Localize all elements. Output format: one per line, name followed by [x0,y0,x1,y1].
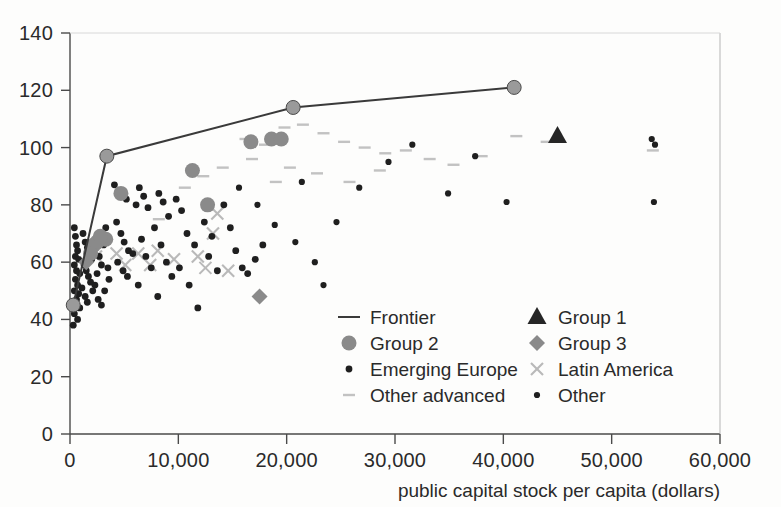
point-emerging-europe [165,213,172,220]
point-emerging-europe [138,236,145,243]
point-group-2 [243,134,258,149]
point-other [254,202,260,208]
frontier-node [286,100,300,114]
point-other [356,185,362,191]
point-emerging-europe [194,305,201,312]
point-emerging-europe [259,242,266,249]
y-tick-label: 60 [30,251,53,273]
point-emerging-europe [105,264,112,271]
point-emerging-europe [148,264,155,271]
point-emerging-europe [168,273,175,280]
point-emerging-europe [121,239,128,246]
legend-item[interactable]: Other [534,385,606,406]
point-emerging-europe [220,201,227,208]
point-group-2 [93,229,108,244]
legend-label: Group 2 [370,333,439,354]
scatter-chart: 020406080100120140010,00020,00030,00040,… [0,0,781,507]
legend-label: Other [558,385,606,406]
point-emerging-europe [73,242,80,249]
point-group-2 [185,163,200,178]
point-other [385,159,391,165]
point-emerging-europe [178,207,185,214]
point-emerging-europe [113,219,120,226]
x-axis-title: public capital stock per capita (dollars… [398,480,720,501]
frontier-node [66,298,80,312]
series-group-1 [548,126,567,143]
legend-item[interactable]: Group 3 [529,333,627,354]
point-emerging-europe [201,219,208,226]
legend-marker-circle-small [346,366,353,373]
point-emerging-europe [70,322,77,329]
y-tick-label: 140 [19,22,53,44]
point-other [272,222,278,228]
point-other [292,239,298,245]
point-group-2 [274,131,289,146]
point-emerging-europe [79,285,86,292]
point-other [652,142,658,148]
point-emerging-europe [135,282,142,289]
y-tick-label: 20 [30,366,53,388]
legend-marker-triangle [528,307,547,324]
point-emerging-europe [214,267,221,274]
point-emerging-europe [227,224,234,231]
point-emerging-europe [118,230,125,237]
legend-label: Group 3 [558,333,627,354]
x-tick-label: 20,000 [255,449,317,471]
point-emerging-europe [133,201,140,208]
point-emerging-europe [244,270,251,277]
point-other [299,179,305,185]
point-other [409,142,415,148]
point-emerging-europe [158,242,165,249]
point-other [651,199,657,205]
legend-marker-diamond [529,335,545,351]
point-emerging-europe [160,199,167,206]
chart-canvas: 020406080100120140010,00020,00030,00040,… [0,0,781,507]
point-emerging-europe [232,247,239,254]
point-emerging-europe [98,302,105,309]
point-emerging-europe [163,259,170,266]
point-other [236,185,242,191]
point-emerging-europe [145,204,152,211]
frontier-node [100,149,114,163]
legend-label: Group 1 [558,307,627,328]
legend-item[interactable]: Frontier [338,307,436,328]
y-tick-label: 120 [19,79,53,101]
point-emerging-europe [95,296,102,303]
point-other [503,199,509,205]
legend-item[interactable]: Latin America [531,359,674,380]
point-other [445,190,451,196]
point-emerging-europe [129,250,136,257]
point-emerging-europe [154,293,161,300]
legend-label: Emerging Europe [370,359,518,380]
point-emerging-europe [114,259,121,266]
legend-item[interactable]: Group 1 [528,307,627,328]
x-tick-label: 50,000 [580,449,642,471]
point-emerging-europe [71,224,78,231]
frontier-node [507,80,521,94]
point-emerging-europe [184,230,191,237]
legend-label: Other advanced [370,385,505,406]
legend-item[interactable]: Group 2 [342,333,439,354]
point-emerging-europe [186,282,193,289]
point-group-3 [252,289,268,305]
point-emerging-europe [72,233,79,240]
point-other [320,282,326,288]
point-group-2 [200,197,215,212]
point-emerging-europe [140,193,147,200]
point-other [333,219,339,225]
point-emerging-europe [205,253,212,260]
point-emerging-europe [101,287,108,294]
point-other [312,259,318,265]
legend-item[interactable]: Emerging Europe [346,359,518,380]
legend-label: Frontier [370,307,436,328]
point-emerging-europe [209,233,216,240]
legend-item[interactable]: Other advanced [343,385,505,406]
point-emerging-europe [120,267,127,274]
point-emerging-europe [151,224,158,231]
point-emerging-europe [142,253,149,260]
point-group-1 [548,126,567,143]
point-emerging-europe [94,270,101,277]
point-emerging-europe [239,264,246,271]
point-emerging-europe [124,273,131,280]
point-emerging-europe [74,316,81,323]
